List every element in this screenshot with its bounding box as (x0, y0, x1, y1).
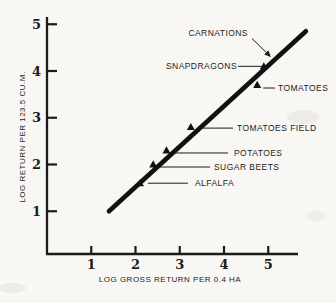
y-tick-label: 4 (32, 64, 41, 79)
x-tick-label: 5 (264, 257, 273, 272)
y-tick-label: 1 (32, 204, 41, 219)
plot-canvas: 1234512345 ALFALFASUGAR BEETSPOTATOESTOM… (0, 0, 336, 303)
point-label-alfalfa: ALFALFA (195, 178, 234, 188)
y-tick-label: 2 (32, 157, 41, 172)
point-label-sugar-beets: SUGAR BEETS (214, 162, 279, 172)
x-tick-label: 3 (175, 257, 184, 272)
x-tick-label: 1 (87, 257, 96, 272)
y-tick-label: 3 (32, 110, 41, 125)
point-label-snapdragons: SNAPDRAGONS (166, 61, 237, 71)
point-label-tomatoes: TOMATOES (278, 83, 328, 93)
scatter-plot-figure: 1234512345 ALFALFASUGAR BEETSPOTATOESTOM… (0, 0, 336, 303)
x-tick-label: 4 (219, 257, 228, 272)
point-label-carnations: CARNATIONS (188, 28, 248, 38)
point-label-potatoes: POTATOES (234, 148, 282, 158)
scan-smudge (287, 110, 319, 124)
y-tick-label: 5 (32, 17, 41, 32)
x-tick-label: 2 (131, 257, 140, 272)
scan-smudge (306, 211, 326, 221)
y-axis-caption: LOG RETURN PER 123.5 CU.M. (18, 71, 27, 202)
point-label-tomatoes-field: TOMATOES FIELD (237, 123, 317, 133)
x-axis-caption: LOG GROSS RETURN PER 0.4 HA (99, 275, 242, 284)
